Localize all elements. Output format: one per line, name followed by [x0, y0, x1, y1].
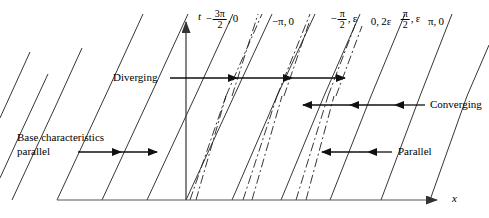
coordinate-second-value: ε	[353, 12, 358, 24]
characteristic-line-partial	[57, 48, 82, 103]
x-axis-label: x	[452, 192, 457, 204]
characteristic-line	[154, 14, 188, 88]
perturbed-characteristic-line	[196, 96, 226, 200]
converging-label: Converging	[430, 98, 482, 110]
coordinate-label-neg-3pi-2: −3π2, 0	[206, 9, 239, 30]
coordinate-label-pi-2-eps: π2, ε	[400, 9, 421, 30]
fraction-pi-over-2: π2	[338, 9, 347, 30]
fraction-3pi-over-2: 3π2	[213, 9, 227, 30]
characteristic-line	[147, 88, 199, 200]
diverging-label: Diverging	[113, 71, 157, 83]
characteristic-line	[186, 96, 234, 200]
characteristic-line	[430, 96, 467, 200]
minus-sign: −	[206, 12, 212, 24]
characteristic-line	[330, 96, 371, 200]
perturbed-characteristic-line	[284, 20, 310, 96]
base-characteristics-label-line1: Base characteristics	[17, 131, 104, 144]
coordinate-second-value: 0	[439, 15, 445, 27]
characteristic-line	[281, 96, 324, 200]
coordinate-second-value: 0	[233, 12, 239, 24]
diagram-canvas	[0, 0, 489, 218]
parallel-label: Parallel	[398, 145, 432, 157]
coordinate-label-origin: 0, 2ε	[371, 15, 392, 27]
perturbed-characteristic-line	[243, 96, 277, 200]
arrow-annotation-lines	[78, 78, 425, 152]
characteristics-diagram: t x −3π2, 0 −π, 0 −π2, ε 0, 2ε π2, ε π, …	[0, 0, 489, 218]
characteristic-line	[467, 45, 489, 96]
base-characteristics-label-line2: parallel	[17, 145, 50, 158]
perturbed-characteristic-line	[296, 96, 328, 200]
characteristic-line	[234, 14, 272, 96]
characteristic-lines-solid	[0, 14, 489, 200]
characteristic-line	[232, 96, 277, 200]
perturbed-characteristic-line	[328, 20, 357, 96]
perturbed-characteristic-line	[190, 96, 226, 200]
perturbed-characteristic-line	[252, 96, 282, 200]
coordinate-first-value: −π	[272, 15, 284, 27]
t-axis-label: t	[198, 10, 201, 22]
coordinate-second-value: 0	[289, 15, 295, 27]
minus-sign: −	[331, 12, 337, 24]
coordinate-second-value: 2ε	[381, 15, 391, 27]
perturbed-characteristic-line	[336, 26, 362, 96]
coordinate-label-pi: π, 0	[428, 15, 444, 27]
characteristic-line-partial	[0, 52, 30, 118]
coordinate-second-value: ε	[416, 12, 421, 24]
coordinate-label-neg-pi: −π, 0	[272, 15, 294, 27]
perturbed-characteristic-line	[306, 96, 334, 200]
characteristic-line-partial	[22, 74, 48, 130]
coordinate-label-neg-pi-2-eps: −π2, ε	[331, 9, 358, 30]
characteristic-lines-dashdot	[190, 14, 362, 200]
fraction-pi-over-2: π2	[401, 9, 410, 30]
characteristic-line	[102, 88, 154, 200]
